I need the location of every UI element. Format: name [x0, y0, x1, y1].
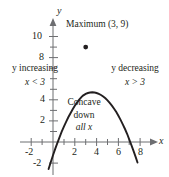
annotation-y-increasing: y increasing x < 3: [4, 64, 66, 87]
annotation-y-decreasing-line1: y decreasing: [103, 64, 167, 74]
y-axis-arrow: [50, 18, 57, 26]
x-tick-label-6: 6: [116, 147, 121, 157]
maximum-point-marker: [83, 45, 88, 50]
annotation-y-decreasing: y decreasing x > 3: [103, 64, 167, 87]
annotation-concave-line3: all x: [60, 123, 108, 133]
y-tick-label-2: 2: [40, 115, 45, 125]
parabola-figure: y x 10 8 4 2 -2 -2 2 4 6 8 Maximum (3, 9…: [0, 0, 169, 177]
y-tick-label-10: 10: [32, 31, 42, 41]
annotation-concave-line2: down: [60, 111, 108, 121]
annotation-concave-line1: Concave: [60, 98, 108, 108]
y-tick-label-8: 8: [39, 52, 44, 62]
annotation-concave-down: Concave down all x: [60, 98, 108, 133]
y-tick-label-4: 4: [40, 94, 45, 104]
x-tick-label-4: 4: [94, 147, 99, 157]
y-tick-label-neg2: -2: [33, 158, 41, 168]
x-axis-label: x: [159, 136, 163, 146]
x-axis-arrow: [150, 139, 158, 146]
x-tick-label-2: 2: [72, 147, 77, 157]
x-tick-label-8: 8: [138, 147, 143, 157]
y-axis-label: y: [57, 6, 61, 16]
x-tick-label-neg2: -2: [25, 147, 33, 157]
annotation-y-increasing-line2: x < 3: [4, 78, 66, 88]
annotation-y-decreasing-line2: x > 3: [103, 78, 167, 88]
annotation-y-increasing-line1: y increasing: [4, 64, 66, 74]
maximum-label: Maximum (3, 9): [66, 20, 129, 30]
